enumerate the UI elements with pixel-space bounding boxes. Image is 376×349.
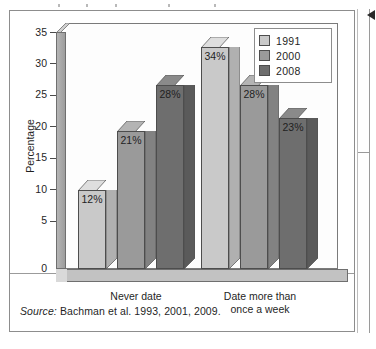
chart-legend: 1991 2000 2008 [254,28,332,83]
x-category-label-date-weekly-line2: once a week [205,303,315,316]
bar-side-face [307,118,318,269]
plot-side-wall [56,32,66,269]
legend-entry-2000: 2000 [259,48,326,63]
y-tick-label-25: 25 [21,89,47,100]
scan-artifact-margin-rule-outer [369,9,370,333]
bar-front-face [201,47,229,269]
scan-artifact-margin-tick [358,152,370,153]
scan-artifact-top-edge [0,0,376,7]
y-tick-label-0: 0 [21,263,47,274]
plot-floor [56,269,348,282]
y-tick-label-10: 10 [21,184,47,195]
bar-label-2000-never-date: 21% [104,134,158,146]
bar-chart: Percentage 35 30 25 20 15 10 5 0 12% [9,10,355,300]
y-tick-label-20: 20 [21,121,47,132]
bar-2008-never-date [156,85,184,269]
y-tick-label-5: 5 [21,215,47,226]
y-tick-label-30: 30 [21,58,47,69]
bar-front-face [279,118,307,269]
legend-swatch-1991-icon [259,35,270,46]
x-category-label-never-date: Never date [81,290,191,303]
legend-entry-2008: 2008 [259,63,326,78]
legend-label-2008: 2008 [276,65,301,77]
bar-2008-date-weekly [279,118,307,269]
legend-label-2000: 2000 [276,50,301,62]
bar-label-2000-date-weekly: 28% [227,88,281,100]
legend-swatch-2000-icon [259,50,270,61]
x-category-label-date-weekly: Date more than once a week [205,290,315,316]
y-axis-tick-labels: 35 30 25 20 15 10 5 0 [21,10,47,300]
bar-2000-date-weekly [240,85,268,269]
legend-entry-1991: 1991 [259,33,326,48]
bar-label-2008-date-weekly: 23% [266,121,320,133]
scan-artifact-margin-rule-inner [357,9,358,333]
y-tick-label-35: 35 [21,27,47,38]
bar-side-face [268,85,279,269]
left-triangle-icon [367,10,375,20]
bar-side-face [145,131,156,269]
y-tick-label-15: 15 [21,152,47,163]
source-caption-text: Bachman et al. 1993, 2001, 2009. [57,305,221,317]
source-caption: Source: Bachman et al. 1993, 2001, 2009. [20,305,221,317]
bar-1991-date-weekly [201,47,229,269]
legend-label-1991: 1991 [276,35,301,47]
legend-swatch-2008-icon [259,65,270,76]
plot-floor-left-bevel [56,269,67,282]
bar-side-face [184,85,195,269]
x-category-label-date-weekly-line1: Date more than [205,290,315,303]
bar-label-2008-never-date: 28% [143,88,197,100]
bar-label-1991-date-weekly: 34% [188,50,242,62]
bar-front-face [156,85,184,269]
bar-front-face [117,131,145,269]
source-caption-label: Source: [20,305,57,317]
bar-side-face [229,47,240,269]
bar-2000-never-date [117,131,145,269]
bar-front-face [240,85,268,269]
bar-label-1991-never-date: 12% [65,193,119,205]
